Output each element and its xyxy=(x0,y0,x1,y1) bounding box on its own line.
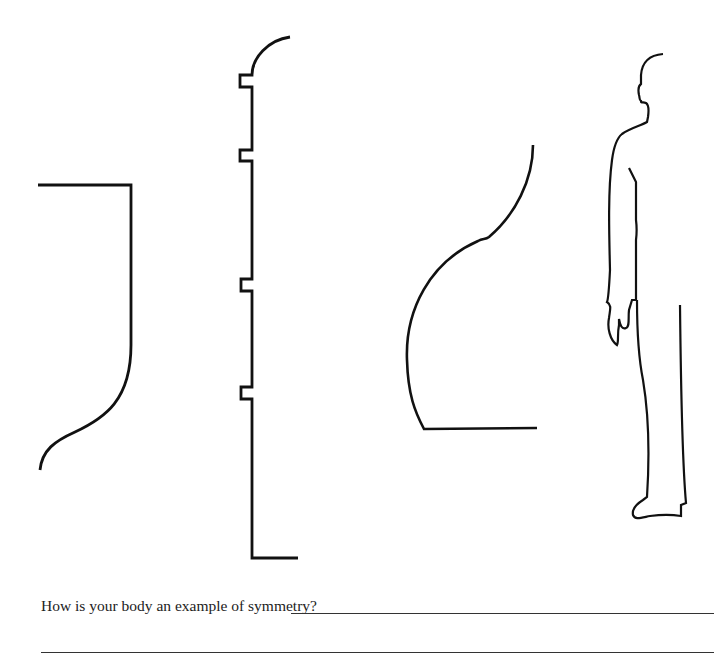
question-text: How is your body an example of symmetry? xyxy=(41,597,317,615)
half-shape-1 xyxy=(38,185,131,470)
answer-line-1[interactable] xyxy=(291,613,714,614)
answer-line-2[interactable] xyxy=(41,652,714,653)
half-body-profile xyxy=(607,54,686,518)
half-shape-3 xyxy=(407,145,537,429)
figures-canvas xyxy=(0,0,723,580)
half-shape-2 xyxy=(240,37,298,558)
